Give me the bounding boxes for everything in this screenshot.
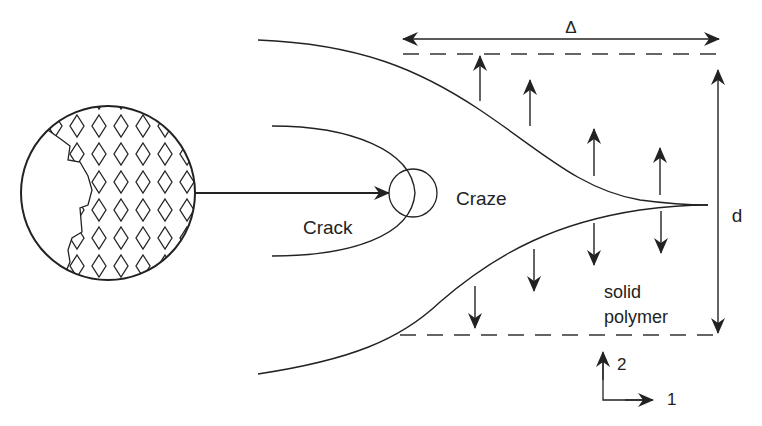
d-label: d [732,205,743,226]
axes-lines [603,355,650,400]
craze-upper-boundary [258,40,708,205]
magnified-view [10,100,200,290]
solid-polymer-label-line2: polymer [604,307,668,327]
crack-tip-circle [389,169,437,217]
crack-label: Crack [303,217,353,238]
delta-label: Δ [565,18,576,37]
upward-stress-arrows [480,56,660,195]
craze-diagram: Δ d Crack Craze solid polymer 2 1 [0,0,762,426]
coordinate-axes: 2 1 [603,352,676,409]
solid-polymer-label-line1: solid [604,282,641,302]
craze-label: Craze [456,188,507,209]
axis-1-label: 1 [667,390,676,409]
axis-2-label: 2 [617,355,626,374]
